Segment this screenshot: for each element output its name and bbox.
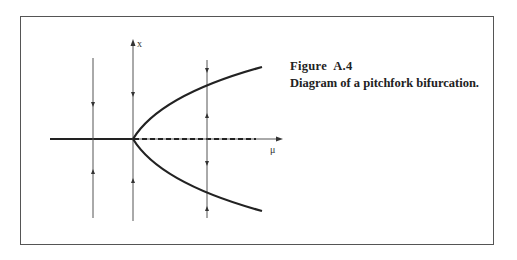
figure-caption-text: Diagram of a pitchfork bifurcation. [290, 75, 479, 92]
mu-axis-label: μ [270, 144, 275, 155]
figure-caption: Figure A.4 Diagram of a pitchfork bifurc… [290, 58, 479, 92]
arrow-down-icon [91, 102, 95, 107]
mu-axis-arrow-icon [276, 137, 283, 142]
arrow-down-icon [205, 161, 209, 166]
arrow-up-icon [205, 113, 209, 118]
figure-label: Figure A.4 [290, 58, 479, 75]
arrow-down-icon [131, 92, 135, 97]
x-axis-arrow-icon [131, 39, 136, 46]
arrow-up-icon [131, 178, 135, 183]
arrow-up-icon [91, 169, 95, 174]
x-axis-label: x [137, 38, 142, 49]
arrow-down-icon [205, 68, 209, 73]
lower-stable-branch [133, 139, 262, 211]
upper-stable-branch [133, 67, 262, 139]
arrow-up-icon [205, 206, 209, 211]
pitchfork-diagram: x μ [0, 0, 517, 260]
